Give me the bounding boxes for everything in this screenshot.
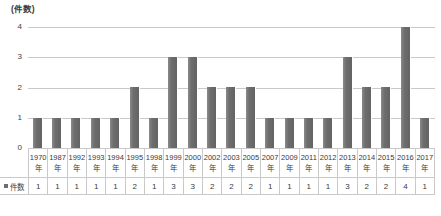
bar-cell: [86, 27, 105, 148]
bar-2013[interactable]: [343, 57, 353, 148]
bar-2016[interactable]: [401, 27, 411, 148]
category-suffix-label: 年: [203, 163, 221, 174]
series-name-label: 件数: [10, 183, 24, 192]
bar-2007[interactable]: [265, 118, 275, 148]
category-suffix-label: 年: [280, 163, 298, 174]
bar-cell: [357, 27, 376, 148]
bar-2000[interactable]: [188, 57, 198, 148]
table-category-cell: 2007年: [260, 149, 279, 178]
table-category-cell: 2017年: [415, 149, 434, 178]
table-value-cell: 1: [144, 178, 163, 195]
data-table: 1970年1987年1992年1993年1994年1995年1998年1999年…: [0, 148, 435, 195]
table-value-cell: 3: [183, 178, 202, 195]
series-legend-cell: 件数: [0, 178, 29, 195]
table-value-cell: 2: [202, 178, 221, 195]
category-year-label: 2005: [242, 152, 260, 163]
bar-2003[interactable]: [226, 87, 236, 148]
category-year-label: 2002: [203, 152, 221, 163]
bar-cell: [396, 27, 415, 148]
bar-1994[interactable]: [110, 118, 120, 148]
y-axis-tick-3: 3: [18, 53, 22, 61]
table-category-cell: 1987年: [48, 149, 67, 178]
category-year-label: 2009: [280, 152, 298, 163]
category-year-label: 2015: [377, 152, 395, 163]
category-year-label: 2014: [358, 152, 376, 163]
table-category-cell: 1994年: [106, 149, 125, 178]
category-suffix-label: 年: [126, 163, 144, 174]
table-category-cell: 2005年: [241, 149, 260, 178]
category-suffix-label: 年: [87, 163, 105, 174]
bar-cell: [67, 27, 86, 148]
category-year-label: 1999: [164, 152, 182, 163]
table-value-cell: 1: [106, 178, 125, 195]
bar-2012[interactable]: [323, 118, 333, 148]
bar-1993[interactable]: [91, 118, 101, 148]
category-suffix-label: 年: [68, 163, 86, 174]
category-year-label: 1970: [29, 152, 47, 163]
bar-cell: [377, 27, 396, 148]
y-axis-tick-2: 2: [18, 84, 22, 92]
table-category-cell: 1995年: [125, 149, 144, 178]
category-suffix-label: 年: [242, 163, 260, 174]
category-suffix-label: 年: [377, 163, 395, 174]
y-axis-tick-4: 4: [18, 23, 22, 31]
bar-cell: [222, 27, 241, 148]
table-category-cell: 2002年: [202, 149, 221, 178]
category-suffix-label: 年: [416, 163, 434, 174]
category-year-label: 1994: [106, 152, 124, 163]
bar-cell: [28, 27, 47, 148]
plot-area: [28, 27, 435, 148]
bar-cell: [416, 27, 435, 148]
table-category-cell: 2009年: [280, 149, 299, 178]
bar-cell: [144, 27, 163, 148]
table-category-cell: 2016年: [396, 149, 415, 178]
bar-cell: [183, 27, 202, 148]
category-suffix-label: 年: [300, 163, 318, 174]
y-axis-unit-label: (件数): [11, 4, 35, 14]
category-suffix-label: 年: [396, 163, 414, 174]
y-axis-tick-1: 1: [18, 114, 22, 122]
category-suffix-label: 年: [48, 163, 66, 174]
table-row-values: 件数 111112133222111132241: [0, 178, 435, 195]
table-value-cell: 2: [222, 178, 241, 195]
bar-cell: [202, 27, 221, 148]
bar-1992[interactable]: [71, 118, 81, 148]
bar-2015[interactable]: [381, 87, 391, 148]
table-value-cell: 2: [241, 178, 260, 195]
bar-series-container: [28, 27, 435, 148]
bar-cell: [164, 27, 183, 148]
table-corner-cell: [0, 149, 29, 178]
category-year-label: 1998: [145, 152, 163, 163]
category-year-label: 2017: [416, 152, 434, 163]
table-category-cell: 2012年: [318, 149, 337, 178]
bar-1999[interactable]: [168, 57, 178, 148]
bar-cell: [280, 27, 299, 148]
table-value-cell: 2: [357, 178, 376, 195]
bar-1987[interactable]: [52, 118, 62, 148]
bar-2009[interactable]: [285, 118, 295, 148]
bar-cell: [299, 27, 318, 148]
bar-2002[interactable]: [207, 87, 217, 148]
table-category-cell: 1998年: [144, 149, 163, 178]
bar-1970[interactable]: [33, 118, 43, 148]
category-year-label: 2007: [261, 152, 279, 163]
category-year-label: 2003: [222, 152, 240, 163]
bar-1995[interactable]: [130, 87, 140, 148]
category-year-label: 2011: [300, 152, 318, 163]
category-year-label: 2000: [184, 152, 202, 163]
table-value-cell: 1: [67, 178, 86, 195]
category-year-label: 1995: [126, 152, 144, 163]
table-category-cell: 2003年: [222, 149, 241, 178]
category-suffix-label: 年: [222, 163, 240, 174]
bar-1998[interactable]: [149, 118, 159, 148]
y-axis-tick-labels: 43210: [0, 27, 26, 148]
table-value-cell: 1: [48, 178, 67, 195]
legend-marker-icon: [4, 184, 8, 188]
bar-2017[interactable]: [420, 118, 430, 148]
table-value-cell: 1: [86, 178, 105, 195]
category-suffix-label: 年: [319, 163, 337, 174]
bar-2014[interactable]: [362, 87, 372, 148]
category-year-label: 2013: [338, 152, 356, 163]
bar-2005[interactable]: [246, 87, 256, 148]
bar-2011[interactable]: [304, 118, 314, 148]
